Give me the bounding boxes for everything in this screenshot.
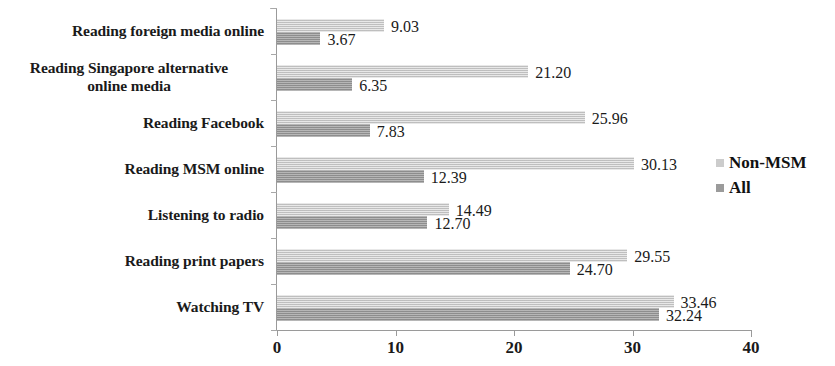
- x-axis-tick: [396, 330, 397, 336]
- category-label: Listening to radio: [0, 206, 264, 224]
- bar-value-label: 7.83: [377, 125, 405, 138]
- category-axis-labels: Reading foreign media onlineReading Sing…: [0, 0, 268, 366]
- bar-value-label: 24.70: [577, 263, 613, 276]
- x-axis-tick-label: 40: [721, 338, 781, 358]
- x-axis-tick-label: 10: [366, 338, 426, 358]
- bar-value-label: 29.55: [634, 250, 670, 263]
- category-label-line: Reading Facebook: [0, 114, 264, 132]
- bar-non-msm: [277, 111, 585, 124]
- bar-non-msm: [277, 65, 528, 78]
- chart-legend: Non-MSMAll: [716, 150, 831, 200]
- y-axis-tick: [271, 8, 277, 9]
- category-label: Reading Singapore alternativeonline medi…: [0, 59, 264, 95]
- bar-non-msm: [277, 249, 627, 262]
- legend-label: Non-MSM: [729, 153, 806, 173]
- bar-value-label: 9.03: [391, 20, 419, 33]
- bar-value-label: 25.96: [592, 112, 628, 125]
- bar-value-label: 21.20: [535, 66, 571, 79]
- x-axis-tick-label: 30: [603, 338, 663, 358]
- x-axis-tick: [751, 330, 752, 336]
- legend-swatch-icon: [716, 159, 724, 167]
- legend-item[interactable]: Non-MSM: [716, 150, 831, 175]
- x-axis-tick: [633, 330, 634, 336]
- category-label-line: Reading Singapore alternative: [0, 59, 258, 77]
- category-label-line: Reading foreign media online: [0, 22, 264, 40]
- bar-all: [277, 262, 570, 275]
- plot-area: 9.033.6721.206.3525.967.8330.1312.3914.4…: [277, 8, 751, 330]
- x-axis-tick: [277, 330, 278, 336]
- bar-value-label: 3.67: [327, 33, 355, 46]
- bar-all: [277, 32, 320, 45]
- bar-non-msm: [277, 295, 674, 308]
- bar-value-label: 12.39: [431, 171, 467, 184]
- bar-all: [277, 124, 370, 137]
- category-label-line: Listening to radio: [0, 206, 264, 224]
- bar-all: [277, 216, 427, 229]
- legend-swatch-icon: [716, 184, 724, 192]
- category-label: Reading foreign media online: [0, 22, 264, 40]
- category-label: Reading Facebook: [0, 114, 264, 132]
- category-label: Reading print papers: [0, 252, 264, 270]
- category-label: Watching TV: [0, 298, 264, 316]
- bar-all: [277, 308, 659, 321]
- y-axis-tick: [271, 192, 277, 193]
- bar-value-label: 6.35: [359, 79, 387, 92]
- bar-chart: Reading foreign media onlineReading Sing…: [0, 0, 835, 366]
- y-axis-tick: [271, 100, 277, 101]
- legend-label: All: [729, 178, 751, 198]
- x-axis-tick: [514, 330, 515, 336]
- category-label-line: Watching TV: [0, 298, 264, 316]
- y-axis-tick: [271, 146, 277, 147]
- y-axis-tick: [271, 238, 277, 239]
- bar-value-label: 32.24: [666, 309, 702, 322]
- category-label-line: Reading print papers: [0, 252, 264, 270]
- bar-all: [277, 78, 352, 91]
- category-label-line: online media: [0, 77, 258, 95]
- bar-value-label: 30.13: [641, 158, 677, 171]
- category-label-line: Reading MSM online: [0, 160, 264, 178]
- category-label: Reading MSM online: [0, 160, 264, 178]
- y-axis-tick: [271, 54, 277, 55]
- bar-non-msm: [277, 203, 449, 216]
- y-axis-tick: [271, 284, 277, 285]
- x-axis-tick-label: 20: [484, 338, 544, 358]
- bar-value-label: 12.70: [434, 217, 470, 230]
- bar-all: [277, 170, 424, 183]
- x-axis-tick-label: 0: [247, 338, 307, 358]
- legend-item[interactable]: All: [716, 175, 831, 200]
